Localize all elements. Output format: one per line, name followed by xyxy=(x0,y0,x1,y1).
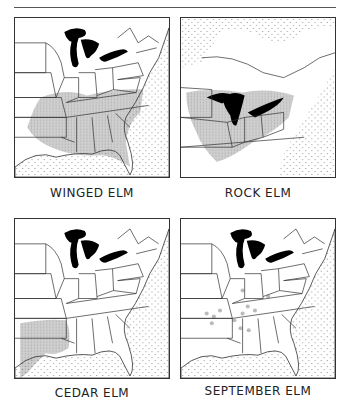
map-september-elm xyxy=(180,218,336,379)
map-rock-elm xyxy=(180,17,336,178)
caption-winged-elm: WINGED ELM xyxy=(12,186,172,200)
map-winged-elm xyxy=(14,17,170,178)
caption-rock-elm: ROCK ELM xyxy=(178,186,338,200)
caption-cedar-elm: CEDAR ELM xyxy=(12,386,172,400)
header-rule xyxy=(14,7,336,8)
caption-september-elm: SEPTEMBER ELM xyxy=(178,384,338,398)
map-cedar-elm xyxy=(14,218,170,379)
